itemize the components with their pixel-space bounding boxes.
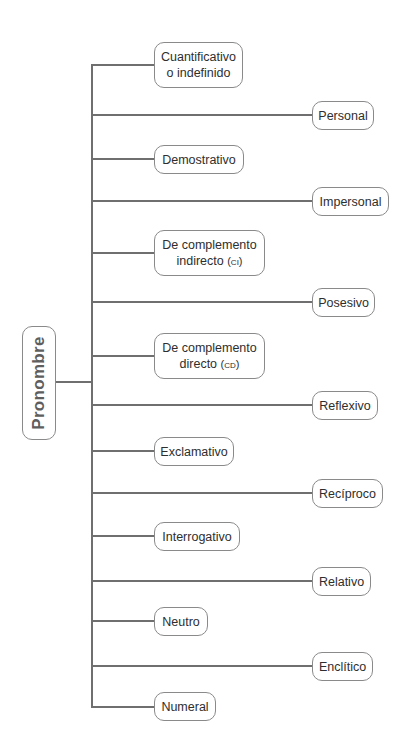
node-complemento-indirecto: De complemento indirecto (ci) — [154, 230, 265, 276]
node-complemento-directo: De complemento directo (cd) — [154, 333, 265, 379]
root-node-pronombre: Pronombre — [22, 326, 56, 440]
branch-line-enclitico — [91, 665, 313, 667]
node-text: Personal — [318, 108, 367, 124]
branch-line-posesivo — [91, 301, 313, 303]
node-interrogativo: Interrogativo — [154, 522, 240, 551]
node-text-line2: o indefinido — [161, 65, 236, 81]
node-text-line2: directo — [180, 357, 218, 371]
branch-line-neutro — [91, 620, 155, 622]
node-enclitico: Enclítico — [312, 652, 373, 681]
branch-line-exclamativo — [91, 450, 155, 452]
node-text: Numeral — [161, 699, 208, 715]
node-abbr: (ci) — [227, 255, 242, 267]
node-text-line2: indirecto — [176, 254, 223, 268]
trunk-line — [91, 64, 93, 708]
branch-line-personal — [91, 114, 313, 116]
node-reflexivo: Reflexivo — [312, 391, 378, 420]
branch-line-cuantificativo — [91, 64, 155, 66]
node-demostrativo: Demostrativo — [154, 145, 244, 174]
node-cuantificativo: Cuantificativo o indefinido — [154, 42, 243, 88]
node-relativo: Relativo — [312, 567, 371, 596]
node-text: Interrogativo — [162, 529, 231, 545]
node-text-line1: Cuantificativo — [161, 49, 236, 65]
node-text: Demostrativo — [162, 152, 236, 168]
root-connector-line — [56, 381, 92, 383]
node-personal: Personal — [312, 101, 374, 130]
node-neutro: Neutro — [154, 607, 208, 636]
node-impersonal: Impersonal — [312, 187, 389, 216]
node-exclamativo: Exclamativo — [154, 437, 234, 466]
pronombre-tree-diagram: Pronombre Cuantificativo o indefinido Pe… — [0, 0, 408, 756]
branch-line-relativo — [91, 580, 313, 582]
node-text: Reflexivo — [319, 398, 370, 414]
branch-line-reflexivo — [91, 404, 313, 406]
branch-line-numeral — [91, 706, 155, 708]
branch-line-impersonal — [91, 200, 313, 202]
node-abbr: (cd) — [221, 358, 240, 370]
node-text: Posesivo — [318, 295, 369, 311]
node-text-line1: De complemento — [162, 340, 257, 356]
node-reciproco: Recíproco — [312, 479, 383, 508]
node-text: Recíproco — [319, 486, 376, 502]
node-text: Enclítico — [319, 659, 366, 675]
root-label: Pronombre — [29, 336, 49, 429]
node-text: Neutro — [162, 614, 200, 630]
node-posesivo: Posesivo — [312, 288, 375, 317]
branch-line-demostrativo — [91, 158, 155, 160]
node-text: Impersonal — [320, 194, 382, 210]
node-text: Exclamativo — [160, 444, 227, 460]
branch-line-complemento-indirecto — [91, 252, 155, 254]
node-text: Relativo — [319, 574, 364, 590]
branch-line-interrogativo — [91, 535, 155, 537]
node-text-line1: De complemento — [162, 237, 257, 253]
node-numeral: Numeral — [154, 692, 216, 721]
branch-line-complemento-directo — [91, 355, 155, 357]
branch-line-reciproco — [91, 492, 313, 494]
